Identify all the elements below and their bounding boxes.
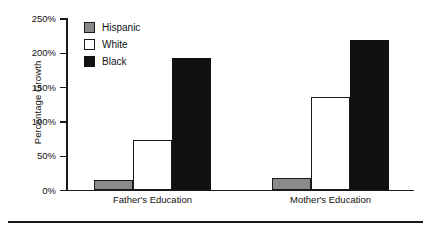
y-tick-mark xyxy=(60,53,66,54)
y-tick-label-wrap: 150% xyxy=(8,82,56,94)
y-tick-mark xyxy=(60,87,66,88)
y-tick-label-wrap: 50% xyxy=(8,150,56,162)
y-tick-label: 250% xyxy=(8,13,56,24)
y-tick-mark xyxy=(60,18,66,19)
y-tick-label: 100% xyxy=(8,116,56,127)
bar-chart-figure: Percentage Growth 250%200%150%100%50%0% … xyxy=(0,0,431,232)
y-tick-label-wrap: 250% xyxy=(8,13,56,25)
y-tick-label: 0% xyxy=(8,185,56,196)
y-tick-mark xyxy=(60,121,66,122)
group-label-2: Mother's Education xyxy=(272,194,389,205)
y-tick-label: 200% xyxy=(8,47,56,58)
chart-legend: Hispanic White Black xyxy=(84,20,140,71)
gray-swatch-icon xyxy=(84,22,95,33)
legend-item-white: White xyxy=(84,37,140,52)
legend-label: Hispanic xyxy=(102,22,140,33)
white-swatch-icon xyxy=(84,39,95,50)
y-tick-label-wrap: 100% xyxy=(8,116,56,128)
y-axis-line xyxy=(66,18,68,191)
y-tick-mark xyxy=(60,190,66,191)
y-tick-label-wrap: 200% xyxy=(8,47,56,59)
y-tick-mark xyxy=(60,156,66,157)
y-tick-label: 50% xyxy=(8,150,56,161)
bar-white-group-1 xyxy=(133,140,172,190)
legend-item-black: Black xyxy=(84,54,140,69)
legend-label: Black xyxy=(102,56,126,67)
y-tick-label-wrap: 0% xyxy=(8,185,56,197)
black-swatch-icon xyxy=(84,56,95,67)
bar-black-group-1 xyxy=(172,58,211,190)
y-tick-label: 150% xyxy=(8,82,56,93)
bar-hispanic-group-1 xyxy=(94,180,133,190)
group-label-1: Father's Education xyxy=(94,194,211,205)
legend-label: White xyxy=(102,39,128,50)
legend-item-hispanic: Hispanic xyxy=(84,20,140,35)
bottom-divider xyxy=(8,221,423,223)
bar-hispanic-group-2 xyxy=(272,178,311,190)
bar-white-group-2 xyxy=(311,97,350,191)
bar-black-group-2 xyxy=(350,40,389,190)
